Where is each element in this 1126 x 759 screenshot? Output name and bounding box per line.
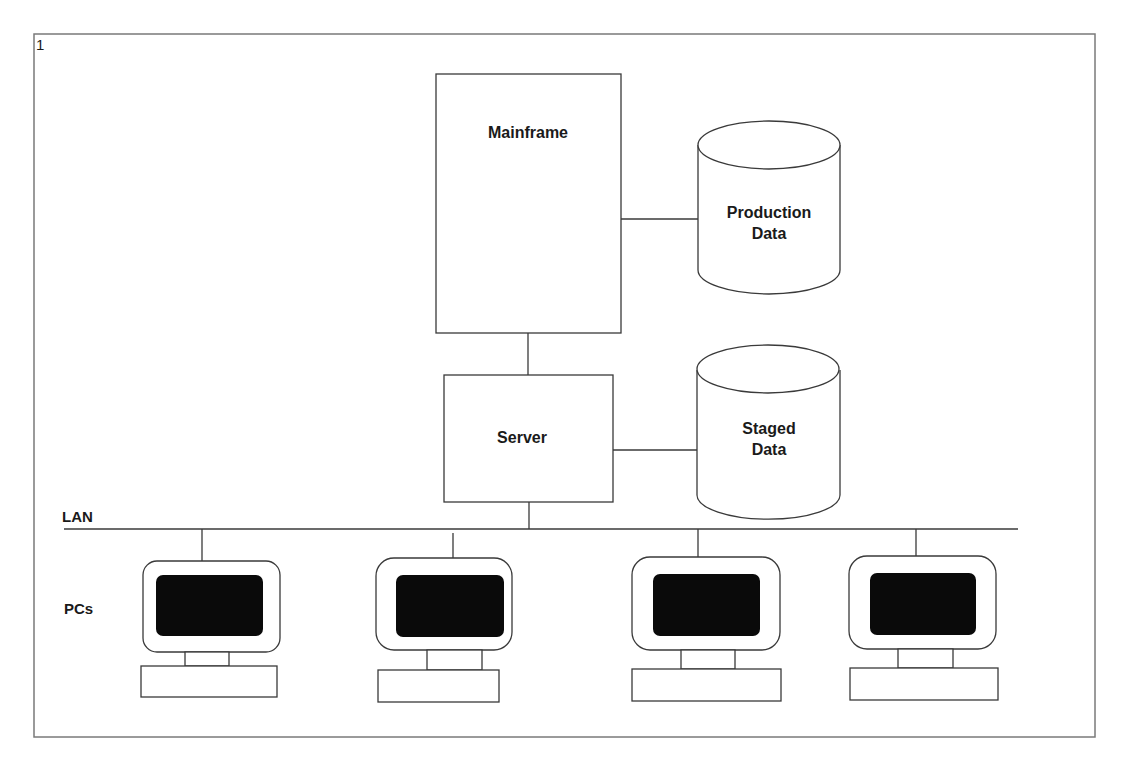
pc-1 [141, 529, 280, 697]
production-data-cylinder: Production Data [698, 121, 840, 294]
production-data-label-line2: Data [752, 225, 787, 242]
lan-label: LAN [62, 508, 93, 525]
pc-3 [632, 529, 781, 701]
production-data-label-line1: Production [727, 204, 811, 221]
pcs-label: PCs [64, 600, 93, 617]
monitor-screen [156, 575, 263, 636]
mainframe-label: Mainframe [488, 124, 568, 141]
keyboard-base [141, 666, 277, 697]
server-node: Server [444, 375, 613, 502]
staged-data-cylinder: Staged Data [697, 345, 840, 519]
cylinder-top [697, 345, 839, 393]
monitor-screen [653, 574, 760, 636]
keyboard-base [632, 669, 781, 701]
monitor-screen [870, 573, 976, 635]
monitor-stand [427, 650, 482, 670]
monitor-stand [681, 650, 735, 669]
pc-4 [849, 529, 998, 700]
figure-number: 1 [36, 36, 44, 53]
keyboard-base [378, 670, 499, 702]
monitor-screen [396, 575, 504, 637]
staged-data-label-line1: Staged [742, 420, 795, 437]
server-label: Server [497, 429, 547, 446]
monitor-stand [898, 649, 953, 668]
keyboard-base [850, 668, 998, 700]
network-architecture-diagram: 1 Mainframe Production Data Server Stage… [0, 0, 1126, 759]
mainframe-node: Mainframe [436, 74, 621, 333]
monitor-stand [185, 652, 229, 666]
cylinder-top [698, 121, 840, 169]
mainframe-box [436, 74, 621, 333]
pc-2 [376, 533, 512, 702]
staged-data-label-line2: Data [752, 441, 787, 458]
